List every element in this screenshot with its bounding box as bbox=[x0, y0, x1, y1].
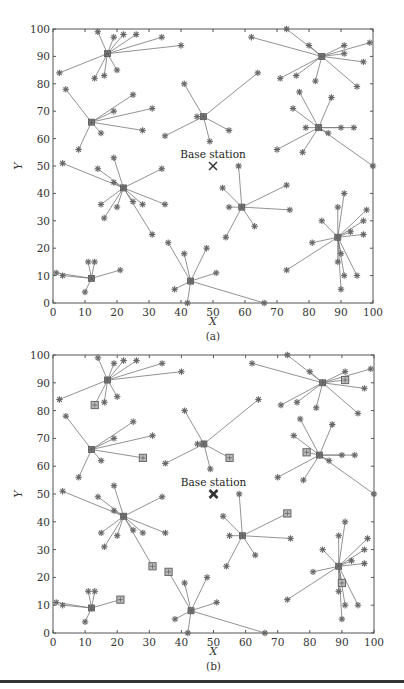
cluster-link bbox=[165, 117, 203, 136]
base-station-label: Base station bbox=[180, 148, 246, 160]
cluster-link bbox=[91, 108, 152, 122]
sensor-node-marker bbox=[361, 560, 367, 566]
sensor-node-marker bbox=[111, 482, 117, 488]
cluster-link bbox=[165, 444, 204, 463]
cluster bbox=[53, 588, 124, 625]
cluster-link bbox=[203, 73, 257, 117]
sensor-node-marker bbox=[181, 407, 187, 413]
sensor-node-marker bbox=[104, 50, 110, 56]
y-tick-label: 100 bbox=[30, 23, 50, 35]
cluster-head-marker bbox=[335, 563, 341, 569]
sensor-node-marker bbox=[194, 441, 200, 447]
cluster-link bbox=[91, 122, 142, 130]
sensor-node-marker bbox=[114, 533, 120, 539]
sensor-node-marker bbox=[200, 113, 206, 119]
cluster-link bbox=[319, 98, 332, 128]
y-tick-label: 50 bbox=[37, 488, 50, 500]
sensor-node-marker bbox=[274, 146, 280, 152]
cluster-link bbox=[323, 383, 358, 414]
cluster bbox=[275, 416, 378, 497]
sensor-node-marker bbox=[171, 286, 177, 292]
sensor-node-marker bbox=[178, 42, 184, 48]
x-tick-label: 30 bbox=[142, 306, 155, 318]
x-tick-label: 70 bbox=[271, 636, 284, 648]
cluster bbox=[59, 482, 168, 569]
sensor-node-marker bbox=[95, 29, 101, 35]
cluster-link bbox=[239, 166, 242, 207]
sensor-node-marker bbox=[98, 457, 104, 463]
sensor-node-marker bbox=[248, 34, 254, 40]
sensor-node-marker bbox=[309, 240, 315, 246]
sensor-node-marker bbox=[312, 78, 318, 84]
sensor-node-marker bbox=[111, 435, 117, 441]
sensor-node-marker bbox=[172, 616, 178, 622]
sensor-node-marker bbox=[149, 231, 155, 237]
sensor-node-marker bbox=[360, 218, 366, 224]
cluster-link bbox=[185, 411, 204, 444]
y-tick-label: 10 bbox=[37, 599, 50, 611]
cluster-link bbox=[252, 363, 323, 382]
sensor-node-marker bbox=[220, 513, 226, 519]
sensor-node-marker bbox=[88, 275, 94, 281]
sensor-node-marker bbox=[239, 204, 245, 210]
cluster-link bbox=[204, 399, 259, 443]
sensor-node-marker bbox=[235, 163, 241, 169]
panel-caption: (a) bbox=[206, 330, 220, 342]
cluster bbox=[162, 396, 261, 472]
sensor-node-marker bbox=[162, 133, 168, 139]
relay-node-marker bbox=[149, 563, 156, 570]
sensor-node-marker bbox=[283, 267, 289, 273]
cluster bbox=[165, 240, 267, 307]
cluster-link bbox=[191, 248, 207, 281]
x-tick-label: 40 bbox=[175, 636, 188, 648]
x-tick-label: 0 bbox=[50, 306, 57, 318]
sensor-node-marker bbox=[371, 491, 377, 497]
sensor-node-marker bbox=[85, 259, 91, 265]
base-station-label: Base station bbox=[181, 476, 247, 488]
cluster-link bbox=[242, 207, 290, 210]
cluster-head-marker bbox=[88, 446, 94, 452]
cluster bbox=[59, 155, 168, 238]
sensor-node-marker bbox=[194, 113, 200, 119]
sensor-node-marker bbox=[310, 569, 316, 575]
chart-panel-b: 0102030405060708090100010203040506070809… bbox=[12, 349, 384, 672]
y-tick-label: 80 bbox=[37, 78, 50, 90]
sensor-node-marker bbox=[88, 119, 94, 125]
sensor-node-marker bbox=[296, 89, 302, 95]
cluster-link bbox=[98, 169, 124, 188]
sensor-node-marker bbox=[82, 619, 88, 625]
sensor-node-marker bbox=[339, 616, 345, 622]
sensor-node-marker bbox=[283, 182, 289, 188]
sensor-node-marker bbox=[111, 34, 117, 40]
sensor-node-marker bbox=[59, 160, 65, 166]
cluster-link bbox=[281, 383, 323, 405]
sensor-node-marker bbox=[207, 466, 213, 472]
sensor-node-marker bbox=[59, 272, 65, 278]
sensor-node-marker bbox=[252, 552, 258, 558]
relay-node-marker bbox=[226, 454, 233, 461]
x-tick-label: 80 bbox=[303, 636, 316, 648]
cluster-head-marker bbox=[120, 513, 126, 519]
sensor-node-marker bbox=[159, 494, 165, 500]
cluster bbox=[249, 352, 374, 417]
sensor-node-marker bbox=[236, 491, 242, 497]
sensor-node-marker bbox=[368, 366, 374, 372]
sensor-node-marker bbox=[88, 605, 94, 611]
cluster-link bbox=[59, 380, 107, 399]
relay-node-marker bbox=[303, 449, 310, 456]
sensor-node-marker bbox=[75, 146, 81, 152]
cluster-link bbox=[242, 185, 287, 207]
sensor-node-marker bbox=[348, 558, 354, 564]
sensor-node-marker bbox=[181, 250, 187, 256]
chart-panel-a: 0102030405060708090100010203040506070809… bbox=[12, 23, 383, 342]
cluster-link bbox=[322, 56, 357, 86]
cluster-head-marker bbox=[201, 441, 207, 447]
sensor-node-marker bbox=[120, 31, 126, 37]
sensor-node-marker bbox=[290, 105, 296, 111]
sensor-node-marker bbox=[53, 599, 59, 605]
y-axis-label: Y bbox=[12, 489, 25, 498]
sensor-node-marker bbox=[159, 360, 165, 366]
cluster bbox=[220, 491, 294, 570]
x-tick-label: 100 bbox=[364, 636, 384, 648]
sensor-node-marker bbox=[303, 124, 309, 130]
